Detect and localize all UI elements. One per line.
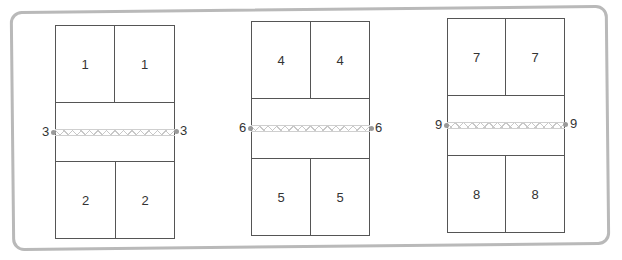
net-post-left [248,126,253,131]
box-label: 1 [81,57,88,72]
net-post-right [563,122,568,127]
net-label-left: 9 [435,118,442,132]
net-post-left [51,130,56,135]
box-label: 1 [141,57,148,72]
net-post-right [369,126,374,131]
box-label: 5 [277,190,284,205]
service-box-top-left: 1 [55,25,115,103]
box-label: 2 [82,193,89,208]
box-label: 4 [277,53,284,68]
net-label-right: 9 [570,117,577,131]
net-label-right: 6 [375,121,382,135]
service-box-bottom-right: 2 [115,161,175,239]
box-label: 8 [531,187,538,202]
box-label: 8 [473,187,480,202]
net-post-right [174,129,179,134]
net-label-left: 6 [239,121,246,135]
service-box-bottom-left: 8 [447,155,506,233]
box-label: 4 [336,53,343,68]
net [447,122,565,129]
service-box-top-left: 7 [447,18,506,96]
net [251,125,370,132]
box-label: 7 [473,50,480,65]
service-box-bottom-left: 2 [55,161,116,239]
net-label-right: 3 [180,124,187,138]
box-label: 2 [141,193,148,208]
service-box-bottom-left: 5 [251,158,311,236]
service-box-top-right: 4 [310,21,370,99]
service-box-bottom-right: 5 [310,158,370,236]
service-box-top-right: 7 [505,18,565,96]
service-box-bottom-right: 8 [505,155,565,233]
box-label: 5 [336,190,343,205]
net [55,129,175,136]
service-box-top-left: 4 [251,21,311,99]
net-label-left: 3 [42,125,49,139]
net-post-left [444,123,449,128]
service-box-top-right: 1 [114,25,175,103]
box-label: 7 [531,50,538,65]
